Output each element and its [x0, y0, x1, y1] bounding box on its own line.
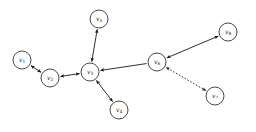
node-layer: v1v2v3v4v5v6v7v8 — [13, 10, 237, 119]
graph-canvas: v1v2v3v4v5v6v7v8 — [0, 0, 256, 132]
graph-edge — [100, 64, 146, 71]
graph-edge — [166, 67, 206, 90]
graph-edge — [31, 66, 41, 73]
graph-diagram: v1v2v3v4v5v6v7v8 — [0, 0, 256, 132]
graph-node-v6: v6 — [148, 53, 166, 71]
graph-edge — [60, 74, 79, 77]
graph-node-v1: v1 — [13, 51, 31, 69]
graph-node-v8: v8 — [219, 23, 237, 41]
graph-node-v4: v4 — [110, 101, 128, 119]
graph-edge — [96, 80, 112, 101]
graph-node-v3: v3 — [81, 63, 99, 81]
graph-node-v7: v7 — [206, 87, 224, 105]
graph-edge — [167, 36, 218, 58]
edge-layer — [31, 29, 218, 101]
graph-edge — [92, 29, 97, 61]
graph-node-v2: v2 — [41, 69, 59, 87]
graph-node-v5: v5 — [90, 10, 108, 28]
